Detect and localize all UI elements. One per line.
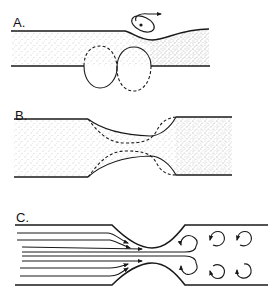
vortex-icon: [237, 232, 251, 246]
panel-b: B.: [14, 108, 232, 177]
panel-a: A.: [11, 13, 210, 91]
panel-a-right-loop-lower: [117, 66, 151, 91]
vortex-center-dot: [139, 23, 142, 26]
panel-c-top-wall: [15, 225, 268, 248]
rotation-arrow-icon: [136, 14, 161, 21]
panel-a-left-loop-lower: [84, 66, 117, 88]
vortex-ellipse: [129, 13, 157, 36]
vortex-icon: [181, 236, 197, 246]
vortices: [181, 232, 252, 279]
panel-c-bottom-wall: [15, 263, 268, 285]
panel-c-label: C.: [16, 210, 29, 225]
vortex-icon: [237, 264, 251, 278]
panel-c: C.: [15, 210, 268, 285]
diagram-svg: A. B. C.: [0, 0, 278, 300]
vortex-icon: [210, 232, 224, 246]
vortex-icon: [210, 265, 224, 279]
panel-a-label: A.: [13, 15, 25, 30]
panel-b-fill-dense: [176, 117, 232, 175]
vortex-icon: [181, 263, 197, 274]
diagram-canvas: A. B. C.: [0, 0, 278, 300]
